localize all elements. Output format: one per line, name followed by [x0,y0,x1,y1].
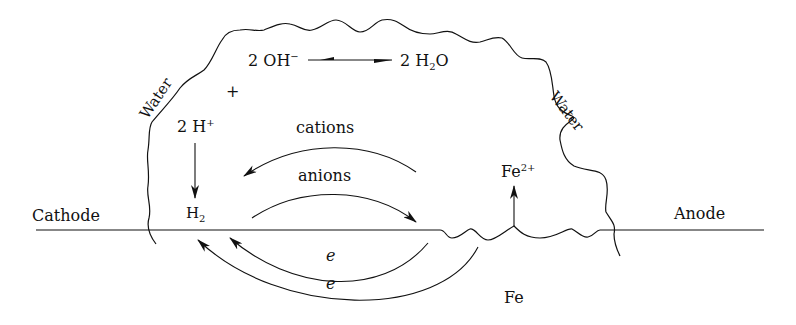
anions-arrow [252,194,416,222]
plus-sign: + [226,84,239,100]
water-boundary [147,19,620,256]
metal-surface-line [36,226,764,240]
hydrogen-label: H2 [186,206,205,224]
corrosion-diagram-lines [0,0,796,325]
hydroxide-label: 2 OH− [248,52,299,69]
anode-label: Anode [674,206,725,222]
iron-ion-label: Fe2+ [501,163,535,180]
protons-label: 2 H+ [177,118,215,135]
cathode-label: Cathode [32,208,100,224]
metal-label: Fe [504,290,524,306]
electron-label-1: e [326,248,335,264]
cations-label: cations [296,120,354,136]
water-product-label: 2 H2O [400,53,449,72]
electron-arrow-outer [198,240,478,300]
equilibrium-barb-left [320,57,334,60]
electron-label-2: e [326,276,335,292]
anions-label: anions [298,168,351,184]
